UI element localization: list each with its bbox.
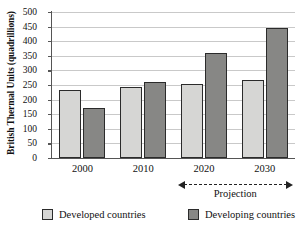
y-axis-tick-label: 400: [3, 36, 37, 46]
x-axis-tick-label-2020: 2020: [174, 163, 234, 174]
y-axis-tick-mark: [48, 100, 52, 101]
projection-label: Projection: [165, 188, 305, 199]
x-axis-tick-label-2010: 2010: [113, 163, 173, 174]
gridline: [52, 56, 295, 57]
bar-developed-2010: [120, 87, 142, 158]
chart-title: [0, 0, 306, 3]
legend-item-developing: Developing countries: [188, 209, 295, 220]
legend-label-developing: Developing countries: [205, 209, 295, 220]
y-axis-tick-mark: [48, 27, 52, 28]
y-axis-tick-mark: [48, 56, 52, 57]
y-axis-tick-label: 0: [3, 153, 37, 163]
y-axis-tick-mark: [48, 114, 52, 115]
legend-label-developed: Developed countries: [59, 209, 146, 220]
x-axis-tick-label-2030: 2030: [235, 163, 295, 174]
legend-swatch-developing-icon: [188, 209, 199, 220]
bar-developing-2030: [266, 28, 288, 158]
gridline: [52, 41, 295, 42]
y-axis-tick-label: 250: [3, 80, 37, 90]
y-axis-tick-mark: [48, 143, 52, 144]
y-axis-tick-label: 450: [3, 22, 37, 32]
bar-developing-2000: [83, 108, 105, 158]
y-axis-tick-label: 50: [3, 138, 37, 148]
y-axis-tick-mark: [48, 158, 52, 159]
y-axis-tick-label: 100: [3, 124, 37, 134]
y-axis-tick-mark: [48, 12, 52, 13]
y-axis-tick-label: 300: [3, 65, 37, 75]
gridline: [52, 70, 295, 71]
bar-developing-2010: [144, 82, 166, 158]
projection-dashed-line: [184, 184, 288, 185]
legend-swatch-developed-icon: [42, 209, 53, 220]
bar-developed-2030: [242, 80, 264, 158]
gridline: [52, 12, 295, 13]
x-axis-tick-label-2000: 2000: [52, 163, 112, 174]
y-axis-tick-mark: [48, 85, 52, 86]
chart-legend: Developed countries Developing countries: [0, 206, 306, 226]
y-axis-tick-label: 150: [3, 109, 37, 119]
y-axis-tick-mark: [48, 70, 52, 71]
legend-item-developed: Developed countries: [42, 209, 146, 220]
y-axis-tick-mark: [48, 41, 52, 42]
bar-developed-2000: [59, 90, 81, 158]
bar-developing-2020: [205, 53, 227, 158]
y-axis-tick-label: 500: [3, 7, 37, 17]
gridline: [52, 27, 295, 28]
bar-developed-2020: [181, 84, 203, 158]
chart-figure: British Thermal Units (quadrillions) 050…: [0, 0, 306, 230]
y-axis-tick-mark: [48, 129, 52, 130]
plot-area: 050100150200250300350400450500: [52, 12, 295, 158]
y-axis-tick-label: 200: [3, 95, 37, 105]
y-axis-tick-label: 350: [3, 51, 37, 61]
